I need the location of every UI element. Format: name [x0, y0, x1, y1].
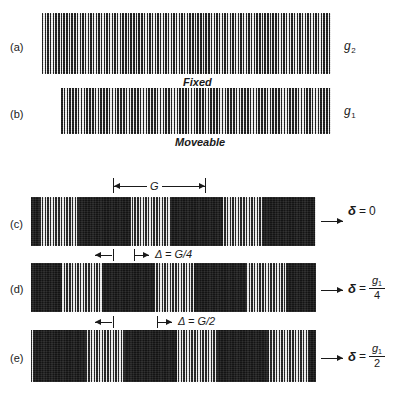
dimension-label-G: G: [147, 180, 162, 192]
displacement-equation-d: δ = g1 4: [348, 275, 385, 301]
shift-label-quarter: Δ = G/4: [152, 248, 195, 260]
panel-label-a: (a): [10, 41, 23, 53]
numerator-sub: 1: [378, 348, 382, 355]
fraction-denominator: 4: [371, 289, 383, 301]
delta-symbol: δ: [348, 203, 356, 218]
shift-tick-a: [113, 249, 114, 261]
shift-arrowhead-e: [337, 355, 343, 361]
equals-sign: =: [359, 281, 366, 295]
grating-label-g2-sub: 2: [351, 46, 356, 55]
delta-symbol: δ: [348, 349, 356, 364]
shift-arrowhead-d: [337, 287, 343, 293]
grating-lines: [42, 13, 331, 74]
shift-arrow-a: [95, 252, 101, 258]
delta-fraction: g1 4: [369, 275, 385, 301]
grating-lines: [61, 88, 331, 134]
moire-fringe-band: [33, 330, 85, 382]
moire-fringe-band: [194, 263, 246, 312]
grating-label-g1-sub: 1: [351, 111, 356, 120]
moire-fringe-figure: (a) Fixed g2 (b) Moveable g1 G (c) δ = 0: [0, 0, 395, 405]
shift-arrow-a: [95, 319, 101, 325]
dimension-arrow-right: [199, 183, 205, 189]
dimension-tick-right: [205, 178, 206, 193]
grating-fixed-g2: [42, 13, 331, 74]
moire-fringe-band: [79, 197, 131, 246]
panel-label-b: (b): [10, 108, 23, 120]
delta-symbol: δ: [348, 281, 356, 296]
shift-label-half: Δ = G/2: [175, 315, 218, 327]
shift-arrow-b: [143, 252, 149, 258]
fraction-numerator: g1: [369, 343, 385, 356]
dimension-arrow-left: [114, 183, 120, 189]
equals-sign: =: [359, 349, 366, 363]
panel-label-d: (d): [10, 283, 23, 295]
equals-sign: =: [359, 204, 366, 218]
caption-fixed: Fixed: [183, 76, 212, 88]
grating-label-g2: g2: [344, 39, 356, 55]
grating-label-g2-base: g: [344, 39, 351, 53]
moire-fringe-band: [217, 330, 269, 382]
grating-moveable-g1: [61, 88, 331, 134]
moire-fringe-band: [286, 263, 316, 312]
grating-label-g1: g1: [344, 104, 356, 120]
moire-fringe-band: [102, 263, 154, 312]
panel-label-e: (e): [10, 352, 23, 364]
grating-label-g1-base: g: [344, 104, 351, 118]
delta-fraction: g1 2: [369, 343, 385, 369]
fraction-numerator: g1: [369, 275, 385, 288]
displacement-equation-c: δ = 0: [348, 203, 376, 218]
moire-pattern-delta-half: [31, 330, 316, 382]
caption-moveable: Moveable: [175, 136, 225, 148]
numerator-sub: 1: [378, 280, 382, 287]
moire-fringe-band: [31, 197, 39, 246]
fraction-denominator: 2: [371, 357, 383, 369]
moire-fringe-band: [31, 263, 62, 312]
moire-fringe-band: [263, 197, 315, 246]
shift-arrowhead-c: [337, 218, 343, 224]
moire-pattern-delta-quarter: [31, 263, 316, 312]
panel-label-c: (c): [10, 218, 23, 230]
grating-lines: [31, 263, 316, 312]
delta-value: 0: [369, 204, 376, 218]
shift-arrow-b: [166, 319, 172, 325]
shift-tick-a: [113, 316, 114, 328]
moire-fringe-band: [309, 330, 316, 382]
moire-pattern-delta-zero: [31, 197, 316, 246]
displacement-equation-e: δ = g1 2: [348, 343, 385, 369]
moire-fringe-band: [125, 330, 177, 382]
moire-fringe-band: [171, 197, 223, 246]
